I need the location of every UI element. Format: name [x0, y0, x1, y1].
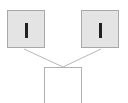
- edge-left-to-target: [24, 49, 63, 67]
- bar-icon: [25, 23, 28, 38]
- target-node: [44, 67, 82, 103]
- right-node: [81, 10, 119, 48]
- edge-right-to-target: [63, 49, 101, 67]
- bar-icon: [99, 23, 102, 38]
- left-node: [7, 10, 45, 48]
